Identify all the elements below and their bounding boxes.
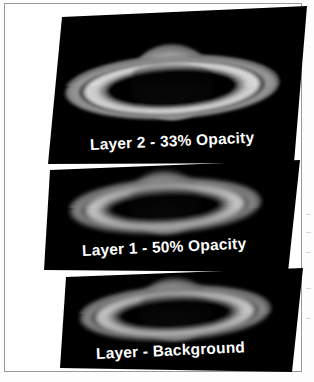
scan-artifact xyxy=(306,252,311,253)
layer-2-ring-shadow xyxy=(132,64,212,84)
layer-1-ring-shadow xyxy=(130,188,200,204)
layer-background-ring-shadow xyxy=(140,295,210,311)
scan-artifact xyxy=(306,232,311,233)
scan-artifact xyxy=(306,214,311,215)
scan-artifact xyxy=(306,288,311,289)
layer-stack-illustration xyxy=(0,0,314,382)
scan-artifact xyxy=(306,318,311,319)
saturn-layers-figure: Layer 2 - 33% Opacity Layer 1 - 50% Opac… xyxy=(0,0,314,382)
